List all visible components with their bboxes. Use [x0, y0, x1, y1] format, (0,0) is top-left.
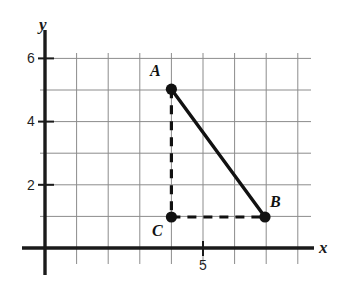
- y-tick-label-6: 6: [27, 51, 35, 65]
- x-axis-label: x: [319, 239, 328, 256]
- vertex-label-c: C: [152, 223, 163, 239]
- y-tick-label-2: 2: [27, 178, 35, 192]
- x-tick-label-5: 5: [199, 258, 207, 272]
- y-tick-label-4: 4: [27, 114, 35, 128]
- vertex-label-a: A: [150, 63, 161, 79]
- vertical-gridlines: [77, 53, 298, 264]
- vertex-point-b: [259, 211, 270, 222]
- plot-canvas: [0, 0, 344, 289]
- vertex-label-b: B: [270, 194, 281, 210]
- y-axis-label: y: [39, 16, 47, 33]
- vertex-point-c: [166, 211, 177, 222]
- vertex-point-a: [166, 84, 177, 95]
- coordinate-plane-figure: y x 6 4 2 5 A B C: [0, 0, 344, 289]
